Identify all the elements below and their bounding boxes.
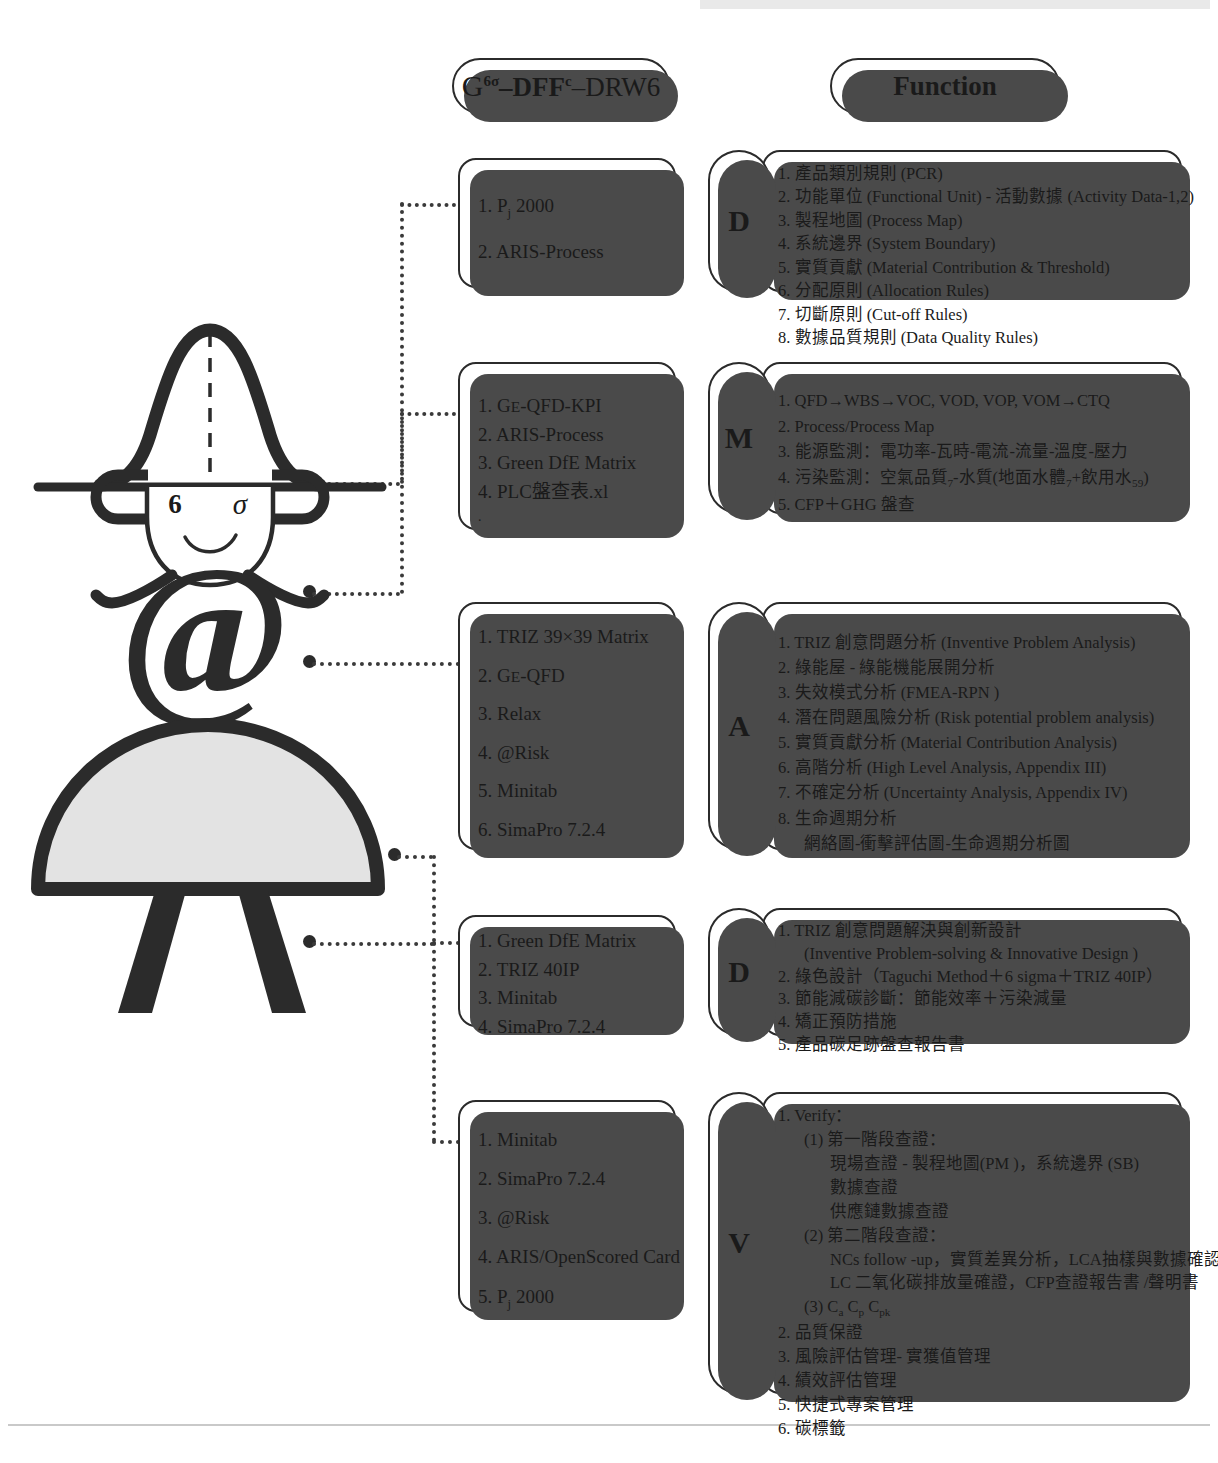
function-item: 5. 實質貢獻分析 (Material Contribution Analysi… [778, 730, 1166, 755]
function-item: 8. 生命週期分析 [778, 806, 1166, 831]
function-box-define: 1. 產品類別規則 (PCR) 2. 功能單位 (Functional Unit… [762, 150, 1182, 292]
function-item: 1. Verify： [778, 1104, 1166, 1128]
function-list-analyze: 1. TRIZ 創意問題分析 (Inventive Problem Analys… [778, 630, 1166, 856]
phase-letter-analyze: A [708, 602, 770, 850]
tool-item: 4. SimaPro 7.2.4 [478, 1013, 656, 1042]
skirt [38, 725, 378, 889]
tools-list-verify: 1. Minitab 2. SimaPro 7.2.4 3. @Risk 4. … [478, 1120, 656, 1317]
phase-letter-text: M [725, 421, 753, 455]
header-function-title: Function [830, 58, 1060, 114]
header-tools-title-text: G6σ–DFFc–DRW6 [454, 60, 668, 112]
function-item: 4. 污染監測：空氣品質7-水質(地面水體7+飲用水59) [778, 465, 1166, 493]
function-item: 3. 能源監測：電功率-瓦時-電流-流量-溫度-壓力 [778, 439, 1166, 465]
function-item: 5. 實質貢獻 (Material Contribution & Thresho… [778, 256, 1166, 279]
function-subitem: NCs follow -up，實質差異分析，LCA抽樣與數據確認， [778, 1248, 1166, 1272]
function-list-design: 1. TRIZ 創意問題解決與創新設計 (Inventive Problem-s… [778, 920, 1166, 1057]
phase-letter-text: D [728, 204, 750, 238]
function-item: 2. 綠色設計（Taguchi Method＋6 sigma＋TRIZ 40IP… [778, 966, 1166, 989]
tools-list-define: 1. Pj 2000 2. ARIS-Process [478, 192, 656, 267]
tool-item: 3. Minitab [478, 984, 656, 1013]
function-item: 3. 節能減碳診斷：節能效率＋污染減量 [778, 988, 1166, 1011]
title-g-superscript: 6σ [483, 73, 499, 89]
function-item: 4. 矯正預防措施 [778, 1011, 1166, 1034]
left-leg [118, 891, 186, 1013]
title-dff: –DFF [499, 72, 565, 102]
function-item: 7. 不確定分析 (Uncertainty Analysis, Appendix… [778, 780, 1166, 805]
tools-box-measure: 1. GE-QFD-KPI 2. ARIS-Process 3. Green D… [458, 362, 676, 530]
right-leg [238, 891, 306, 1013]
function-item: 8. 數據品質規則 (Data Quality Rules) [778, 326, 1166, 349]
connector-segment [432, 1140, 460, 1144]
eye-sigma: σ [233, 488, 249, 520]
tool-item: 1. Pj 2000 [478, 192, 656, 222]
tool-item: 1. Green DfE Matrix [478, 927, 656, 956]
function-item: 1. QFD→WBS→VOC, VOD, VOP, VOM→CTQ [778, 388, 1166, 414]
function-subitem: 現場查證 - 製程地圖(PM )，系統邊界 (SB) [778, 1152, 1166, 1176]
function-box-analyze: 1. TRIZ 創意問題分析 (Inventive Problem Analys… [762, 602, 1182, 850]
function-subitem: 供應鏈數據查證 [778, 1200, 1166, 1224]
connector-segment [400, 203, 456, 207]
title-drw: –DRW6 [572, 72, 661, 102]
function-item: 5. 產品碳足跡盤查報告書 [778, 1034, 1166, 1057]
function-box-design: 1. TRIZ 創意問題解決與創新設計 (Inventive Problem-s… [762, 908, 1182, 1036]
function-item: 1. TRIZ 創意問題解決與創新設計 [778, 920, 1166, 943]
tool-item: 1. Minitab [478, 1120, 656, 1159]
phase-letter-define: D [708, 150, 770, 292]
function-item: 4. 績效評估管理 [778, 1369, 1166, 1393]
header-function-title-text: Function [832, 60, 1058, 112]
function-subitem: 數據查證 [778, 1176, 1166, 1200]
function-list-verify: 1. Verify： (1) 第一階段查證： 現場查證 - 製程地圖(PM )，… [778, 1104, 1166, 1441]
diagram-canvas: G6σ–DFFc–DRW6 Function 6 σ [0, 0, 1218, 1463]
function-item: 6. 分配原則 (Allocation Rules) [778, 279, 1166, 302]
tool-item: 1. TRIZ 39×39 Matrix [478, 618, 656, 657]
tool-item: 3. Relax [478, 695, 656, 734]
tool-item: 3. @Risk [478, 1198, 656, 1237]
function-item: 3. 失效模式分析 (FMEA-RPN ) [778, 680, 1166, 705]
function-box-measure: 1. QFD→WBS→VOC, VOD, VOP, VOM→CTQ 2. Pro… [762, 362, 1182, 514]
tool-item: 6. SimaPro 7.2.4 [478, 811, 656, 850]
tools-box-design: 1. Green DfE Matrix 2. TRIZ 40IP 3. Mini… [458, 915, 676, 1027]
function-subitem: 網絡圖-衝擊評估圖-生命週期分析圖 [778, 831, 1166, 856]
six-sigma-character: 6 σ @ [0, 285, 420, 1030]
tools-list-design: 1. Green DfE Matrix 2. TRIZ 40IP 3. Mini… [478, 927, 656, 1041]
function-item: 3. 風險評估管理- 實獲值管理 [778, 1345, 1166, 1369]
function-list-measure: 1. QFD→WBS→VOC, VOD, VOP, VOM→CTQ 2. Pro… [778, 388, 1166, 518]
function-item: 4. 潛在問題風險分析 (Risk potential problem anal… [778, 705, 1166, 730]
title-g: G [462, 69, 484, 102]
function-item: 7. 切斷原則 (Cut-off Rules) [778, 303, 1166, 326]
tool-item: 5. Minitab [478, 772, 656, 811]
function-box-verify: 1. Verify： (1) 第一階段查證： 現場查證 - 製程地圖(PM )，… [762, 1092, 1182, 1394]
top-edge-artifact [700, 0, 1210, 9]
tools-list-analyze: 1. TRIZ 39×39 Matrix 2. GE-QFD 3. Relax … [478, 618, 656, 849]
connector-segment [432, 942, 436, 1142]
function-list-define: 1. 產品類別規則 (PCR) 2. 功能單位 (Functional Unit… [778, 162, 1166, 349]
phase-letter-verify: V [708, 1092, 770, 1394]
tool-item: 2. TRIZ 40IP [478, 956, 656, 985]
phase-letter-text: A [728, 709, 750, 743]
tool-item: 1. GE-QFD-KPI [478, 392, 656, 421]
tool-item: 4. PLC盤查表.xl [478, 478, 656, 507]
phase-letter-text: D [728, 955, 750, 989]
function-item: 2. 綠能屋 - 綠能機能展開分析 [778, 655, 1166, 680]
tool-item: 2. ARIS-Process [478, 238, 656, 267]
tool-item-dot: . [478, 506, 656, 527]
function-item: 2. Process/Process Map [778, 414, 1166, 440]
function-item: 3. 製程地圖 (Process Map) [778, 209, 1166, 232]
function-item: 1. TRIZ 創意問題分析 (Inventive Problem Analys… [778, 630, 1166, 655]
function-item: 5. 快捷式專案管理 [778, 1393, 1166, 1417]
tools-list-measure: 1. GE-QFD-KPI 2. ARIS-Process 3. Green D… [478, 392, 656, 527]
function-item: 1. 產品類別規則 (PCR) [778, 162, 1166, 185]
connector-segment [432, 941, 460, 945]
tool-item: 2. GE-QFD [478, 657, 656, 696]
phase-letter-text: V [728, 1226, 750, 1260]
function-item: 6. 碳標籤 [778, 1417, 1166, 1441]
function-subitem: (1) 第一階段查證： [778, 1128, 1166, 1152]
phase-letter-measure: M [708, 362, 770, 514]
mascot-drawing: 6 σ @ [0, 285, 420, 1030]
header-tools-title: G6σ–DFFc–DRW6 [452, 58, 670, 114]
function-subitem: (2) 第二階段查證： [778, 1224, 1166, 1248]
tools-box-define: 1. Pj 2000 2. ARIS-Process [458, 158, 676, 288]
function-item: 2. 功能單位 (Functional Unit) - 活動數據 (Activi… [778, 185, 1166, 208]
phase-letter-design: D [708, 908, 770, 1036]
tool-item: 3. Green DfE Matrix [478, 449, 656, 478]
